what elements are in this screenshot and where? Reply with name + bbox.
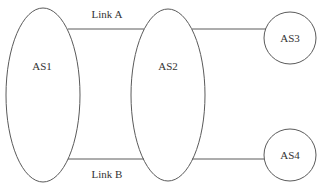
as2-node: [131, 9, 205, 181]
link-a-label: Link A: [92, 8, 123, 20]
as1-label: AS1: [32, 60, 52, 72]
as4-label: AS4: [280, 149, 300, 161]
as3-label: AS3: [280, 32, 300, 44]
as1-node: [6, 8, 80, 182]
as2-label: AS2: [158, 60, 178, 72]
as-topology-diagram: AS1 AS2 AS3 AS4 Link A Link B: [0, 0, 324, 189]
link-b-label: Link B: [92, 168, 123, 180]
